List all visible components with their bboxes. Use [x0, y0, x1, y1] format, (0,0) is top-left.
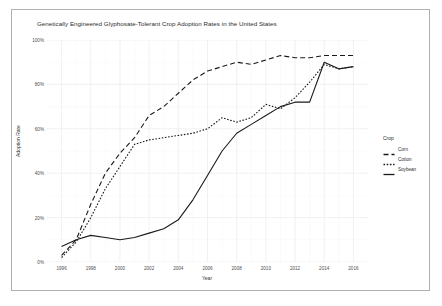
x-tick-label: 2012 [290, 266, 300, 271]
y-tick-label: 100% [20, 38, 44, 43]
x-tick-label: 1996 [56, 266, 66, 271]
x-tick-label: 2014 [319, 266, 329, 271]
x-tick-label: 2000 [115, 266, 125, 271]
legend-item-soybean[interactable]: Soybean [383, 165, 431, 174]
y-tick-label: 40% [20, 171, 44, 176]
legend-key-icon [383, 145, 395, 154]
legend-key-icon [383, 155, 395, 164]
legend-item-label: Cotton [398, 157, 412, 162]
legend-item-cotton[interactable]: Cotton [383, 155, 431, 164]
legend-item-label: Soybean [398, 167, 416, 172]
x-tick-label: 2002 [144, 266, 154, 271]
y-tick-label: 0% [20, 260, 44, 265]
x-tick-label: 2010 [261, 266, 271, 271]
y-tick-label: 80% [20, 82, 44, 87]
legend: Crop CornCottonSoybean [383, 135, 431, 175]
x-axis-title: Year [202, 275, 212, 281]
x-tick-label: 2016 [348, 266, 358, 271]
legend-key-icon [383, 165, 395, 174]
line-chart-svg [47, 40, 368, 262]
legend-item-corn[interactable]: Corn [383, 145, 431, 154]
legend-title: Crop [383, 135, 431, 141]
chart-title: Genetically Engineered Glyphosate-Tolera… [37, 20, 277, 27]
x-tick-label: 2008 [232, 266, 242, 271]
legend-items: CornCottonSoybean [383, 145, 431, 174]
x-tick-label: 2006 [202, 266, 212, 271]
x-tick-label: 2004 [173, 266, 183, 271]
y-tick-label: 60% [20, 126, 44, 131]
plot-panel [47, 40, 368, 262]
y-tick-label: 20% [20, 215, 44, 220]
x-tick-label: 1998 [86, 266, 96, 271]
legend-item-label: Corn [398, 147, 408, 152]
y-axis-title: Adoption Rate [15, 125, 21, 157]
